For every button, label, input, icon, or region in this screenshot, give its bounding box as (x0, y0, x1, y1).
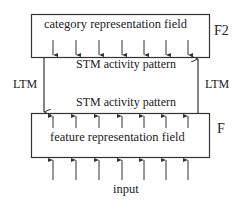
bottom-stm-label: STM activity pattern (76, 95, 176, 110)
ltm-left-label: LTM (13, 77, 37, 92)
art-diagram: category representation field F2 STM act… (0, 0, 239, 206)
feature-field-label: feature representation field (50, 130, 185, 145)
top-down-arrows (53, 40, 188, 55)
top-stm-label: STM activity pattern (76, 57, 176, 72)
input-label: input (113, 182, 139, 197)
ltm-right-label: LTM (205, 77, 229, 92)
category-field-label: category representation field (44, 17, 187, 32)
f2-tag: F2 (214, 23, 229, 39)
input-arrows (53, 160, 188, 180)
bottom-up-arrows (53, 116, 188, 128)
f-tag: F (217, 121, 225, 137)
